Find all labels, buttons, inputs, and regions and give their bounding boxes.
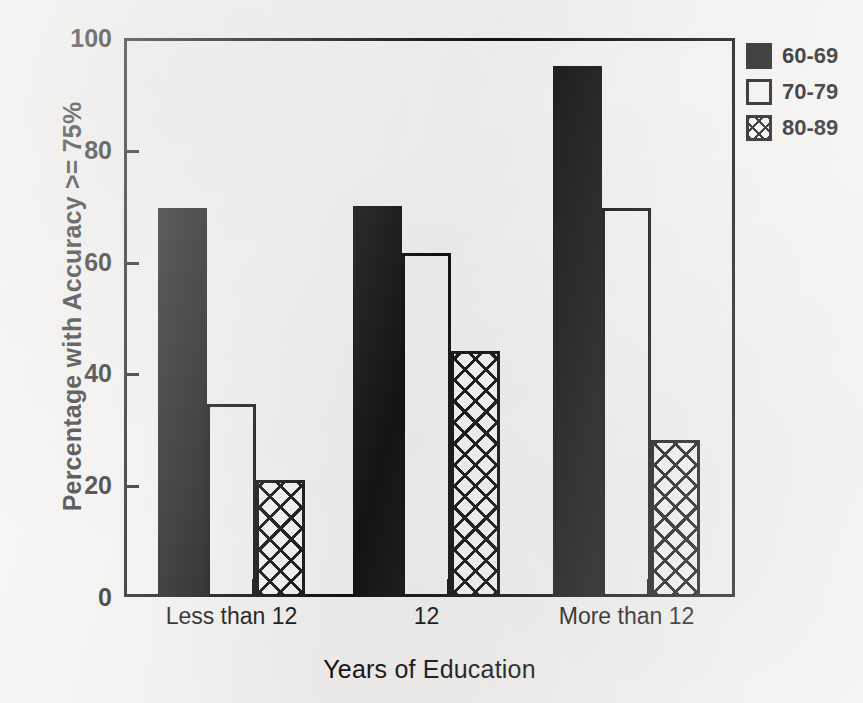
- legend-swatch-icon-70-79: [746, 79, 772, 105]
- x-category-label-1: Less than 12: [122, 603, 342, 630]
- x-tick-mark: [252, 579, 255, 597]
- bar-80-89-12: [451, 351, 500, 597]
- bar-60-69-12: [353, 206, 402, 597]
- bar-60-69-less-than-12: [158, 208, 207, 597]
- bar-70-79-less-than-12: [207, 404, 256, 597]
- bar-80-89-more-than-12: [651, 440, 700, 597]
- legend-item-70-79[interactable]: 70-79: [746, 74, 863, 110]
- legend-label-70-79: 70-79: [782, 79, 838, 105]
- legend: 60-6970-7980-89: [746, 38, 863, 146]
- bars-layer: [0, 0, 863, 703]
- x-axis-title: Years of Education: [124, 655, 735, 684]
- legend-label-80-89: 80-89: [782, 115, 838, 141]
- bar-70-79-12: [402, 253, 451, 597]
- legend-item-60-69[interactable]: 60-69: [746, 38, 863, 74]
- legend-label-60-69: 60-69: [782, 43, 838, 69]
- bar-chart-figure: Percentage with Accuracy >= 75% 02040608…: [0, 0, 863, 703]
- x-tick-mark: [647, 579, 650, 597]
- legend-item-80-89[interactable]: 80-89: [746, 110, 863, 146]
- x-category-label-3: More than 12: [517, 603, 737, 630]
- bar-60-69-more-than-12: [553, 66, 602, 597]
- legend-swatch-icon-60-69: [746, 43, 772, 69]
- legend-swatch-icon-80-89: [746, 115, 772, 141]
- x-tick-mark: [447, 579, 450, 597]
- x-category-label-2: 12: [317, 603, 537, 630]
- bar-80-89-less-than-12: [256, 480, 305, 597]
- bar-70-79-more-than-12: [602, 208, 651, 597]
